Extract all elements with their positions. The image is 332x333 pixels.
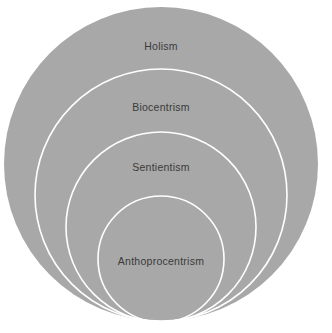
circle-label-holism: Holism [144,40,178,52]
circle-label-biocentrism: Biocentrism [132,101,190,113]
circle-label-anthoprocentrism: Anthoprocentrism [118,255,204,267]
nested-circles-diagram: HolismBiocentrismSentientismAnthoprocent… [0,0,332,333]
circle-label-sentientism: Sentientism [132,161,190,173]
